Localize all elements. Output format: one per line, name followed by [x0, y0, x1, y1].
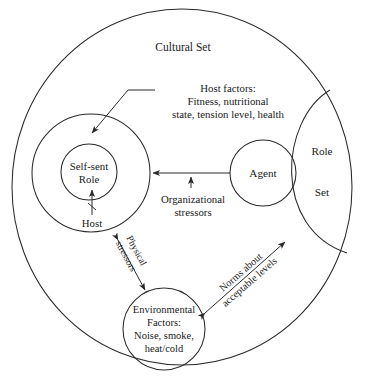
environmental-factors-label-line2: Factors:: [147, 317, 181, 328]
host-factors-label-line1: Host factors:: [200, 82, 255, 94]
host-label: Host: [82, 217, 102, 229]
self-sent-role-label-line1: Self-sent: [70, 160, 108, 172]
host-factors-label-line3: state, tension level, health: [172, 108, 284, 120]
diagram-svg: Cultural Set Host factors: Fitness, nutr…: [0, 0, 366, 383]
self-sent-role-label-line2: Role: [79, 173, 100, 185]
host-factors-arrow: [92, 90, 128, 133]
role-label: Role: [311, 145, 332, 157]
physical-stressors-label-group: Physical stressors: [114, 233, 150, 273]
self-sent-role-circle: [61, 144, 117, 200]
organizational-stressors-label-line2: stressors: [174, 206, 211, 218]
environmental-factors-label-line3: Noise, smoke,: [134, 330, 194, 341]
host-factors-label-line2: Fitness, nutritional: [188, 95, 269, 107]
environmental-factors-circle: [123, 288, 205, 370]
organizational-stressors-label-line1: Organizational: [161, 193, 225, 205]
agent-label: Agent: [249, 167, 277, 179]
diagram-canvas: Cultural Set Host factors: Fitness, nutr…: [0, 0, 366, 383]
environmental-factors-label-line4: heat/cold: [145, 343, 184, 354]
cultural-set-label: Cultural Set: [155, 41, 211, 53]
environmental-factors-label-line1: Environmental: [133, 304, 195, 315]
role-set-arc: [292, 90, 347, 253]
set-label: Set: [315, 186, 330, 198]
